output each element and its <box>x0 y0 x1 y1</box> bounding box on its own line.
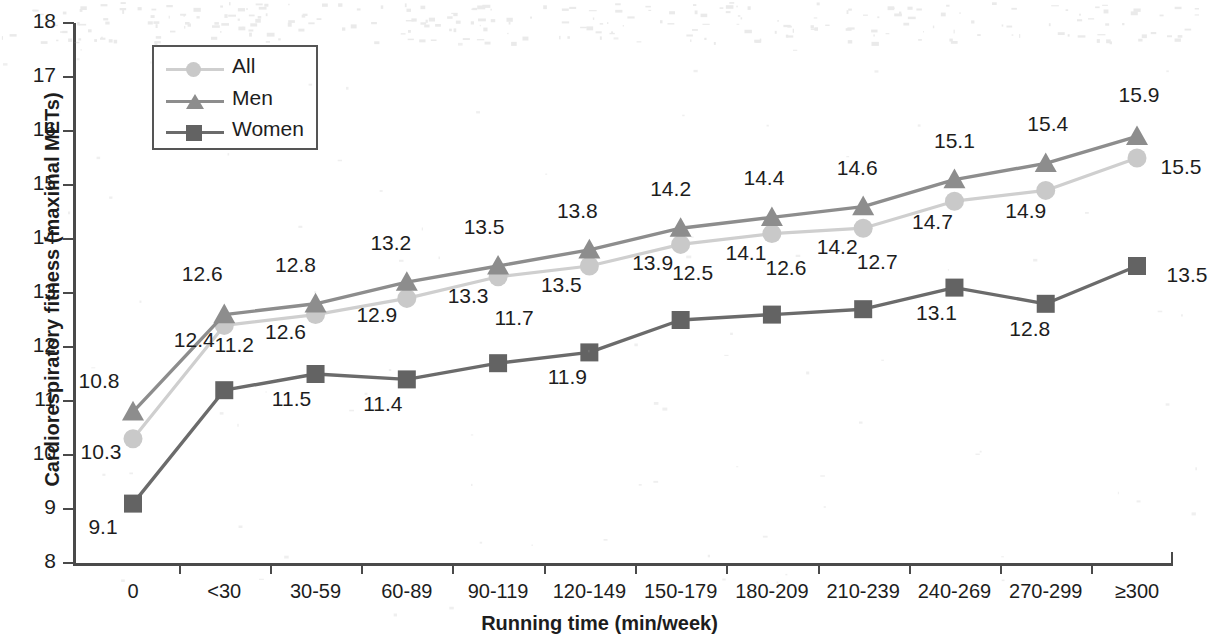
value-label-women-1: 11.2 <box>189 333 279 357</box>
x-tick-label-11: ≥300 <box>1072 580 1202 603</box>
x-tick-11 <box>1091 563 1093 574</box>
value-label-women-0: 9.1 <box>58 515 148 539</box>
x-tick-6 <box>635 563 637 574</box>
data-point-women-7 <box>763 306 781 324</box>
legend-item-all: All <box>164 53 314 85</box>
y-tick-label-16: 16 <box>10 117 56 141</box>
value-label-men-8: 14.6 <box>812 156 902 180</box>
y-tick-label-9: 9 <box>10 495 56 519</box>
x-tick-4 <box>452 563 454 574</box>
value-label-men-1: 12.6 <box>157 262 247 286</box>
data-point-men-3 <box>396 271 418 291</box>
y-tick-label-14: 14 <box>10 225 56 249</box>
data-point-women-8 <box>854 300 872 318</box>
value-label-men-3: 13.2 <box>346 231 436 255</box>
data-point-women-6 <box>672 311 690 329</box>
value-label-women-8: 12.7 <box>832 250 922 274</box>
legend-marker-triangle-icon <box>186 94 204 109</box>
y-tick-14 <box>63 238 74 240</box>
x-axis-line <box>73 563 1173 566</box>
value-label-women-3: 11.4 <box>338 392 428 416</box>
value-label-all-3: 12.9 <box>332 303 422 327</box>
value-label-all-10: 14.9 <box>981 199 1071 223</box>
legend-item-women: Women <box>164 116 314 148</box>
x-tick-9 <box>909 563 911 574</box>
data-point-men-6 <box>670 217 692 237</box>
legend-marker-circle-icon <box>186 62 201 77</box>
y-tick-label-12: 12 <box>10 333 56 357</box>
legend-label-all: All <box>232 54 255 78</box>
value-label-women-6: 12.5 <box>648 261 738 285</box>
y-tick-label-17: 17 <box>10 63 56 87</box>
data-point-women-4 <box>489 354 507 372</box>
value-label-men-5: 13.8 <box>532 199 622 223</box>
data-point-men-9 <box>943 169 965 189</box>
data-point-men-1 <box>213 304 235 324</box>
data-point-men-2 <box>305 293 327 313</box>
y-tick-label-10: 10 <box>10 441 56 465</box>
y-tick-13 <box>63 292 74 294</box>
value-label-men-10: 15.4 <box>1003 112 1093 136</box>
data-point-women-2 <box>307 365 325 383</box>
value-label-women-4: 11.7 <box>469 306 559 330</box>
legend-label-women: Women <box>232 117 304 141</box>
y-tick-12 <box>63 346 74 348</box>
data-point-men-7 <box>761 206 783 226</box>
series-women <box>124 257 1146 513</box>
value-label-men-9: 15.1 <box>909 129 999 153</box>
value-label-women-7: 12.6 <box>741 256 831 280</box>
data-point-women-1 <box>215 381 233 399</box>
value-label-men-4: 13.5 <box>439 215 529 239</box>
data-point-men-11 <box>1126 125 1148 145</box>
data-point-men-0 <box>122 401 144 421</box>
data-point-men-8 <box>852 196 874 216</box>
x-tick-8 <box>818 563 820 574</box>
data-point-men-5 <box>578 239 600 259</box>
chart-legend: All Men Women <box>152 45 318 150</box>
x-tick-1 <box>179 563 181 574</box>
value-label-men-2: 12.8 <box>251 253 341 277</box>
value-label-all-4: 13.3 <box>423 284 513 308</box>
y-tick-8 <box>63 562 74 564</box>
value-label-all-5: 13.5 <box>516 273 606 297</box>
data-point-women-3 <box>398 370 416 388</box>
value-label-men-11: 15.9 <box>1094 83 1184 107</box>
x-tick-10 <box>1000 563 1002 574</box>
y-tick-label-13: 13 <box>10 279 56 303</box>
data-point-women-9 <box>945 279 963 297</box>
data-point-men-10 <box>1035 152 1057 172</box>
value-label-women-10: 12.8 <box>985 317 1075 341</box>
x-tick-5 <box>544 563 546 574</box>
value-label-all-0: 10.3 <box>56 440 146 464</box>
x-axis-right-cap <box>1171 552 1173 564</box>
value-label-all-9: 14.7 <box>887 210 977 234</box>
value-label-women-2: 11.5 <box>247 387 337 411</box>
data-point-women-5 <box>580 343 598 361</box>
legend-item-men: Men <box>164 85 314 117</box>
data-point-all-10 <box>1036 181 1055 200</box>
y-tick-11 <box>63 400 74 402</box>
y-tick-label-11: 11 <box>10 387 56 411</box>
x-tick-3 <box>361 563 363 574</box>
x-axis-title: Running time (min/week) <box>0 612 1199 635</box>
y-axis-line <box>73 23 76 566</box>
y-tick-9 <box>63 508 74 510</box>
value-label-men-6: 14.2 <box>626 177 716 201</box>
value-label-men-0: 10.8 <box>54 369 144 393</box>
data-point-men-4 <box>487 255 509 275</box>
value-label-women-5: 11.9 <box>522 365 612 389</box>
y-tick-17 <box>63 76 74 78</box>
legend-label-men: Men <box>232 86 273 110</box>
legend-marker-square-icon <box>186 125 202 141</box>
y-tick-label-15: 15 <box>10 171 56 195</box>
y-tick-16 <box>63 130 74 132</box>
value-label-men-7: 14.4 <box>719 166 809 190</box>
y-tick-label-8: 8 <box>10 549 56 573</box>
value-label-all-11: 15.5 <box>1136 155 1212 179</box>
x-tick-7 <box>726 563 728 574</box>
y-tick-15 <box>63 184 74 186</box>
value-label-women-11: 13.5 <box>1142 263 1212 287</box>
value-label-women-9: 13.1 <box>891 301 981 325</box>
series-line-women <box>133 266 1137 504</box>
